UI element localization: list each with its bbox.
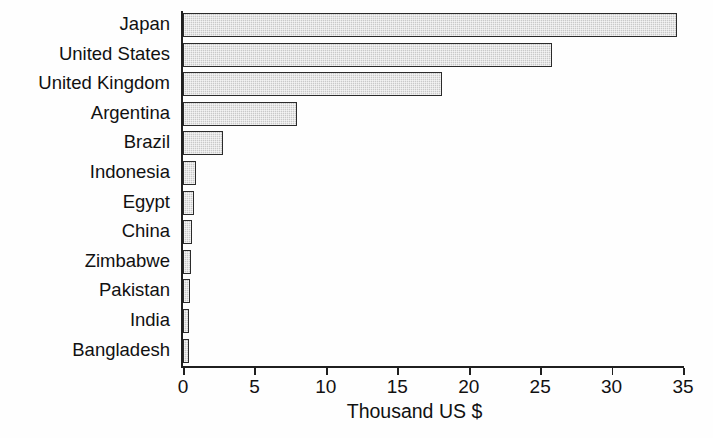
category-label: United Kingdom	[38, 73, 170, 93]
x-tick-mark	[612, 368, 614, 375]
bar	[183, 339, 189, 363]
bar-row	[183, 307, 683, 337]
bar	[183, 191, 194, 215]
bar	[183, 279, 190, 303]
bar	[183, 72, 442, 96]
bar	[183, 43, 552, 67]
bar-row	[183, 41, 683, 71]
x-tick-label: 35	[653, 376, 713, 398]
x-tick-mark	[254, 368, 256, 375]
x-tick-label: 0	[153, 376, 213, 398]
bar-row	[183, 277, 683, 307]
category-label: Brazil	[124, 132, 170, 152]
bar-row	[183, 218, 683, 248]
bar	[183, 220, 192, 244]
bar	[183, 102, 297, 126]
x-tick-mark	[683, 368, 685, 375]
x-tick-label: 15	[367, 376, 427, 398]
x-axis-line	[181, 366, 684, 368]
category-label: Egypt	[123, 192, 170, 212]
x-tick-mark	[469, 368, 471, 375]
bar-row	[183, 100, 683, 130]
bar	[183, 131, 223, 155]
bar	[183, 161, 196, 185]
y-axis-line	[181, 11, 183, 368]
bar	[183, 309, 189, 333]
category-label: Zimbabwe	[85, 251, 170, 271]
bar-chart: JapanUnited StatesUnited KingdomArgentin…	[0, 0, 713, 438]
x-tick-mark	[326, 368, 328, 375]
bar-row	[183, 70, 683, 100]
y-axis-category-labels: JapanUnited StatesUnited KingdomArgentin…	[0, 11, 176, 366]
bar-row	[183, 11, 683, 41]
x-tick-label: 10	[296, 376, 356, 398]
x-tick-label: 30	[582, 376, 642, 398]
category-label: Indonesia	[90, 162, 170, 182]
x-axis-title: Thousand US $	[0, 400, 713, 423]
x-tick-label: 20	[439, 376, 499, 398]
bar-row	[183, 159, 683, 189]
x-tick-label: 5	[224, 376, 284, 398]
bar-row	[183, 248, 683, 278]
bar-row	[183, 337, 683, 367]
plot-area	[183, 11, 683, 366]
category-label: Bangladesh	[72, 340, 170, 360]
x-tick-mark	[183, 368, 185, 375]
category-label: United States	[59, 44, 170, 64]
bar	[183, 13, 677, 37]
category-label: China	[122, 221, 170, 241]
category-label: India	[130, 310, 170, 330]
x-tick-mark	[540, 368, 542, 375]
bar-row	[183, 189, 683, 219]
bar-row	[183, 129, 683, 159]
category-label: Argentina	[91, 103, 170, 123]
x-tick-mark	[397, 368, 399, 375]
x-tick-label: 25	[510, 376, 570, 398]
category-label: Japan	[120, 14, 170, 34]
category-label: Pakistan	[99, 280, 170, 300]
bar	[183, 250, 191, 274]
